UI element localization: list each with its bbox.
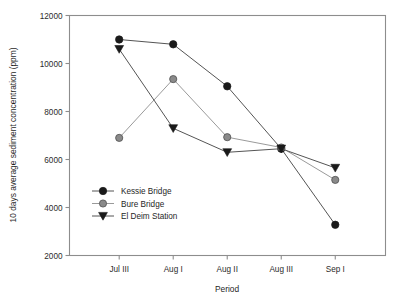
- y-tick-label: 8000: [44, 108, 63, 117]
- data-point: [169, 125, 178, 133]
- x-axis-tick-labels: Jul IIIAug IAug IIAug IIISep I: [109, 265, 344, 274]
- chart-legend: Kessie BridgeBure BridgeEl Deim Station: [92, 187, 178, 221]
- y-tick-label: 2000: [44, 252, 63, 261]
- data-point: [332, 221, 339, 228]
- data-point: [116, 134, 123, 141]
- data-point: [224, 83, 231, 90]
- data-point: [170, 76, 177, 83]
- x-tick-label: Aug I: [164, 265, 183, 274]
- x-axis-title: Period: [215, 284, 240, 294]
- legend-marker-icon: [99, 187, 106, 194]
- y-axis-title: 10 days average sediment concentration (…: [8, 47, 18, 222]
- y-tick-label: 4000: [44, 204, 63, 213]
- x-tick-label: Aug II: [217, 265, 238, 274]
- line-chart-canvas: 20004000600080001000012000 Jul IIIAug IA…: [0, 0, 399, 304]
- series-bure-bridge: [116, 76, 339, 184]
- series-el-deim-station: [115, 45, 340, 172]
- chart-figure: 20004000600080001000012000 Jul IIIAug IA…: [0, 0, 399, 304]
- data-point: [332, 176, 339, 183]
- legend-label: El Deim Station: [121, 212, 178, 221]
- legend-item: Kessie Bridge: [92, 187, 172, 196]
- data-point: [170, 41, 177, 48]
- series-line: [119, 40, 335, 225]
- y-tick-label: 10000: [40, 60, 63, 69]
- x-axis-ticks: [119, 256, 335, 260]
- data-point: [331, 164, 340, 172]
- legend-item: El Deim Station: [92, 212, 178, 221]
- data-point: [115, 36, 122, 43]
- y-tick-label: 6000: [44, 156, 63, 165]
- data-point: [115, 45, 124, 53]
- legend-item: Bure Bridge: [92, 200, 165, 209]
- x-tick-label: Jul III: [109, 265, 129, 274]
- y-axis-tick-labels: 20004000600080001000012000: [40, 12, 63, 261]
- y-tick-label: 12000: [40, 12, 63, 21]
- legend-marker-icon: [99, 200, 106, 207]
- data-point: [224, 134, 231, 141]
- y-axis-ticks: [66, 16, 70, 256]
- x-tick-label: Aug III: [269, 265, 293, 274]
- x-tick-label: Sep I: [326, 265, 345, 274]
- series-line: [119, 79, 335, 180]
- legend-label: Bure Bridge: [121, 200, 165, 209]
- legend-label: Kessie Bridge: [121, 187, 172, 196]
